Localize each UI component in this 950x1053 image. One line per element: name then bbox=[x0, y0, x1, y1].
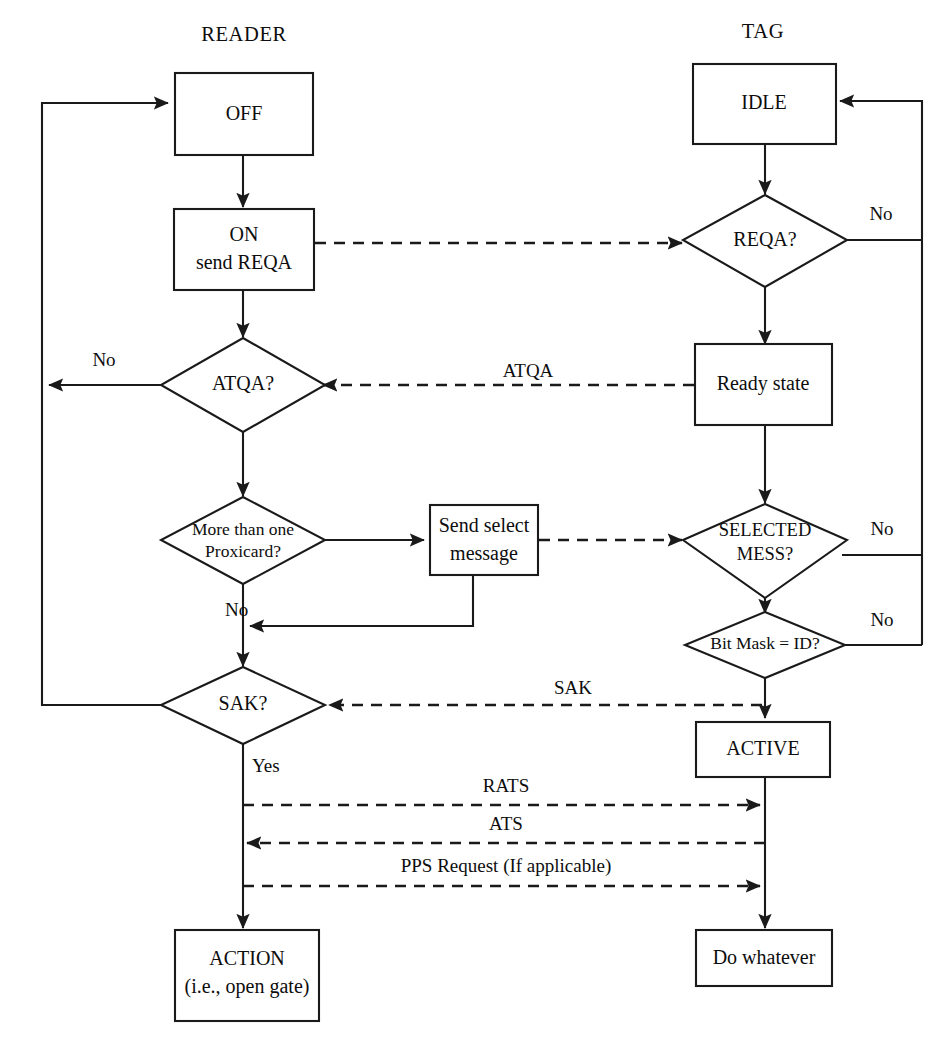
node-send-select-label-line2: message bbox=[450, 542, 518, 565]
node-sak-label: SAK? bbox=[219, 692, 268, 714]
node-off-label: OFF bbox=[226, 102, 263, 124]
edge-label-pps: PPS Request (If applicable) bbox=[401, 855, 612, 877]
edge-label-rats: RATS bbox=[483, 775, 529, 796]
node-more-than-one-proxicard[interactable]: More than one Proxicard? bbox=[161, 497, 325, 584]
node-send-select-label-line1: Send select bbox=[439, 514, 530, 536]
node-ready-state[interactable]: Ready state bbox=[695, 344, 832, 425]
node-atqa[interactable]: ATQA? bbox=[161, 338, 325, 432]
node-sak[interactable]: SAK? bbox=[161, 667, 325, 744]
edge-label-reqa-no: No bbox=[869, 203, 892, 224]
node-active-label: ACTIVE bbox=[726, 737, 799, 759]
edge-label-ats: ATS bbox=[489, 813, 523, 834]
node-do-whatever[interactable]: Do whatever bbox=[696, 930, 832, 986]
node-idle-label: IDLE bbox=[741, 91, 787, 113]
node-selected-label-line2: MESS? bbox=[737, 544, 794, 564]
flowchart-diagram: READER TAG No No Yes No No No REQA? bbox=[0, 0, 950, 1053]
node-proxicard-label-line2: Proxicard? bbox=[205, 541, 281, 561]
node-active[interactable]: ACTIVE bbox=[696, 722, 830, 777]
edge-label-proxicard-no: No bbox=[225, 599, 248, 620]
node-do-whatever-label: Do whatever bbox=[713, 946, 816, 968]
node-selected-label-line1: SELECTED bbox=[719, 520, 812, 540]
edge-right-return-bus-to-idle bbox=[840, 101, 922, 645]
node-on-send-reqa[interactable]: ON send REQA bbox=[174, 209, 314, 290]
flowchart-canvas: READER TAG No No Yes No No No REQA? bbox=[0, 0, 950, 1053]
edge-label-sak-yes: Yes bbox=[252, 755, 280, 776]
edge-label-bitmask-no: No bbox=[870, 609, 893, 630]
node-reqa-label: REQA? bbox=[733, 228, 796, 250]
edge-sak-no-return-to-off bbox=[42, 103, 168, 705]
node-atqa-label: ATQA? bbox=[212, 372, 274, 394]
edge-send-select-loopback bbox=[250, 575, 473, 626]
node-reqa[interactable]: REQA? bbox=[683, 195, 847, 287]
edge-label-atqa-no: No bbox=[92, 349, 115, 370]
node-send-select-message[interactable]: Send select message bbox=[430, 505, 538, 575]
node-ready-state-label: Ready state bbox=[717, 372, 810, 395]
node-selected-mess[interactable]: SELECTED MESS? bbox=[683, 504, 847, 598]
node-bit-mask[interactable]: Bit Mask = ID? bbox=[685, 612, 845, 678]
edge-label-atqa-message: ATQA bbox=[503, 360, 554, 381]
lane-title-tag: TAG bbox=[742, 20, 784, 42]
node-on-label-line1: ON bbox=[230, 223, 259, 245]
edge-label-selected-no: No bbox=[870, 518, 893, 539]
edge-label-sak-message: SAK bbox=[554, 677, 592, 698]
node-bit-mask-label: Bit Mask = ID? bbox=[710, 633, 820, 653]
node-off[interactable]: OFF bbox=[175, 73, 313, 155]
node-action-label-line2: (i.e., open gate) bbox=[185, 975, 310, 998]
node-action[interactable]: ACTION (i.e., open gate) bbox=[175, 930, 319, 1021]
node-on-label-line2: send REQA bbox=[196, 251, 293, 273]
node-action-label-line1: ACTION bbox=[209, 947, 285, 969]
lane-title-reader: READER bbox=[201, 23, 287, 45]
node-idle[interactable]: IDLE bbox=[693, 64, 836, 144]
node-proxicard-label-line1: More than one bbox=[192, 519, 294, 539]
